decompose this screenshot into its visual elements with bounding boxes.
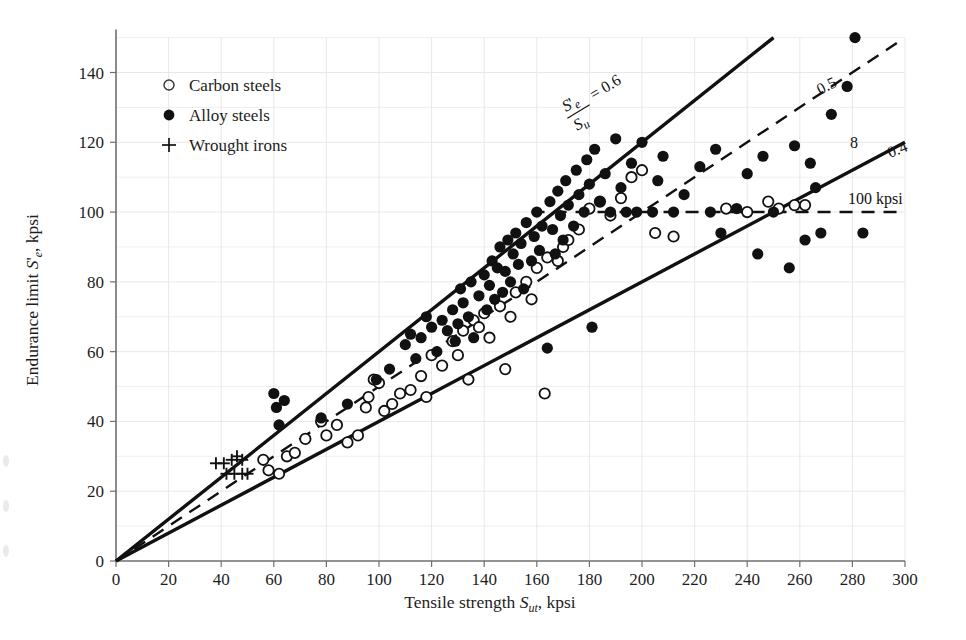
data-point-carbon-steel — [263, 465, 273, 475]
x-axis-tick-label: 140 — [471, 570, 497, 589]
data-point-alloy-steel — [463, 311, 474, 322]
data-point-alloy-steel — [579, 206, 590, 217]
data-point-alloy-steel — [421, 311, 432, 322]
data-point-alloy-steel — [789, 140, 800, 151]
data-point-alloy-steel — [652, 175, 663, 186]
data-point-alloy-steel — [715, 227, 726, 238]
annotation-ratio-0-6: S'e Su = 0.6 — [557, 68, 634, 137]
data-point-alloy-steel — [465, 276, 476, 287]
data-point-alloy-steel — [705, 206, 716, 217]
svg-text:Tensile strength Sut, kpsi: Tensile strength Sut, kpsi — [404, 592, 576, 615]
data-point-alloy-steel — [589, 144, 600, 155]
data-point-alloy-steel — [694, 161, 705, 172]
svg-text:Endurance limit S'e, kpsi: Endurance limit S'e, kpsi — [22, 214, 45, 386]
data-point-carbon-steel — [342, 437, 352, 447]
data-point-alloy-steel — [568, 220, 579, 231]
legend-filled-circle-icon — [164, 110, 175, 121]
data-point-alloy-steel — [455, 283, 466, 294]
data-point-alloy-steel — [636, 137, 647, 148]
y-axis-tick-label: 80 — [87, 273, 104, 292]
data-point-alloy-steel — [473, 290, 484, 301]
data-point-alloy-steel — [452, 318, 463, 329]
data-point-alloy-steel — [826, 109, 837, 120]
data-point-carbon-steel — [405, 385, 415, 395]
data-point-alloy-steel — [371, 374, 382, 385]
data-point-alloy-steel — [497, 287, 508, 298]
data-point-carbon-steel — [361, 402, 371, 412]
data-point-alloy-steel — [405, 329, 416, 340]
data-point-carbon-steel — [484, 332, 494, 342]
data-point-alloy-steel — [600, 168, 611, 179]
data-point-carbon-steel — [668, 231, 678, 241]
y-axis-tick-label: 20 — [87, 482, 104, 501]
data-point-alloy-steel — [400, 339, 411, 350]
data-point-alloy-steel — [508, 248, 519, 259]
data-point-alloy-steel — [342, 398, 353, 409]
data-point-alloy-steel — [573, 189, 584, 200]
data-point-alloy-steel — [550, 248, 561, 259]
x-axis-tick-label: 20 — [160, 570, 177, 589]
x-axis-tick-label: 160 — [524, 570, 550, 589]
data-point-alloy-steel — [536, 220, 547, 231]
y-axis-tick-label: 100 — [79, 203, 105, 222]
data-point-alloy-steel — [468, 332, 479, 343]
legend: Carbon steels Alloy steels Wrought irons — [162, 76, 287, 155]
data-point-alloy-steel — [431, 346, 442, 357]
data-point-alloy-steel — [544, 196, 555, 207]
data-point-alloy-steel — [560, 175, 571, 186]
data-point-alloy-steel — [273, 419, 284, 430]
data-point-alloy-steel — [657, 151, 668, 162]
data-point-carbon-steel — [274, 469, 284, 479]
x-axis-tick-label: 100 — [366, 570, 392, 589]
data-point-carbon-steel — [463, 374, 473, 384]
data-point-carbon-steel — [637, 165, 647, 175]
data-point-alloy-steel — [857, 227, 868, 238]
data-point-alloy-steel — [547, 224, 558, 235]
data-point-carbon-steel — [300, 434, 310, 444]
x-axis-tick-label: 180 — [577, 570, 603, 589]
data-point-alloy-steel — [678, 189, 689, 200]
data-point-alloy-steel — [518, 283, 529, 294]
data-point-alloy-steel — [799, 234, 810, 245]
data-point-alloy-steel — [505, 276, 516, 287]
data-point-alloy-steel — [731, 203, 742, 214]
data-point-alloy-steel — [668, 206, 679, 217]
data-point-alloy-steel — [526, 255, 537, 266]
data-point-alloy-steel — [279, 395, 290, 406]
data-point-carbon-steel — [387, 399, 397, 409]
data-point-alloy-steel — [531, 206, 542, 217]
x-axis-tick-label: 200 — [629, 570, 655, 589]
data-point-alloy-steel — [757, 151, 768, 162]
data-point-carbon-steel — [421, 392, 431, 402]
data-point-alloy-steel — [510, 227, 521, 238]
data-point-alloy-steel — [768, 206, 779, 217]
data-point-alloy-steel — [500, 266, 511, 277]
annotation-line-0-4: 0.4 — [885, 138, 910, 161]
y-axis-tick-label: 0 — [96, 552, 105, 571]
data-point-alloy-steel — [521, 217, 532, 228]
data-point-alloy-steel — [442, 325, 453, 336]
data-point-carbon-steel — [474, 322, 484, 332]
data-point-alloy-steel — [558, 234, 569, 245]
data-point-alloy-steel — [621, 206, 632, 217]
data-point-carbon-steel — [353, 430, 363, 440]
data-point-alloy-steel — [842, 81, 853, 92]
data-point-alloy-steel — [484, 280, 495, 291]
annotation-stray-mark: 8 — [850, 134, 858, 151]
y-axis-tick-label: 60 — [87, 343, 104, 362]
data-point-alloy-steel — [626, 158, 637, 169]
data-point-carbon-steel — [650, 228, 660, 238]
annotation-line-0-4-group: 0.4 — [885, 138, 910, 161]
data-point-alloy-steel — [805, 158, 816, 169]
data-point-alloy-steel — [513, 259, 524, 270]
data-point-alloy-steel — [481, 304, 492, 315]
data-point-alloy-steel — [384, 363, 395, 374]
data-point-carbon-steel — [526, 294, 536, 304]
data-point-alloy-steel — [563, 199, 574, 210]
data-point-alloy-steel — [268, 388, 279, 399]
data-point-alloy-steel — [458, 297, 469, 308]
data-point-alloy-steel — [647, 206, 658, 217]
data-point-carbon-steel — [437, 360, 447, 370]
data-point-carbon-steel — [763, 196, 773, 206]
data-point-carbon-steel — [332, 420, 342, 430]
